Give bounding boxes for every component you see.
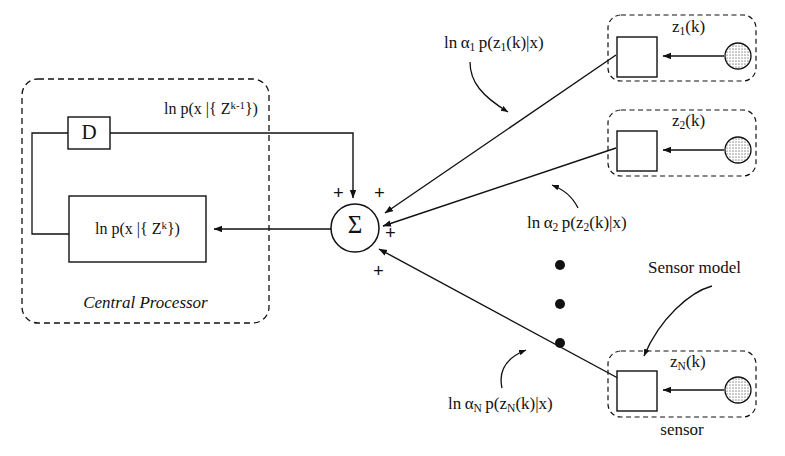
sensor-1-measurement-label: z1(k) xyxy=(672,17,705,38)
state-estimate-label: ln p(x |{ Zk}) xyxy=(69,219,206,238)
sensor-annotation: sensor xyxy=(608,420,756,440)
lk2-ln: ln xyxy=(527,213,540,232)
feedback-path xyxy=(32,133,69,234)
sensor-2-measurement-label: z2(k) xyxy=(672,111,705,132)
sensor-1-link xyxy=(385,55,616,213)
lk2-tail: (k)|x) xyxy=(589,213,626,232)
summing-junction-symbol: Σ xyxy=(331,212,379,237)
state-expression-suffix: }) xyxy=(167,220,180,237)
sensor-n-measurement-label: zN(k) xyxy=(670,352,706,373)
ellipsis-dot xyxy=(555,260,565,270)
z1-arg: (k) xyxy=(685,17,705,36)
state-expression-prefix: ln p(x |{ Z xyxy=(95,220,161,237)
lkn-alpha: α xyxy=(465,394,474,413)
likelihood-n-label: ln αN p(zN(k)|x) xyxy=(448,394,553,415)
plus-sign-sensor-2: + xyxy=(385,222,396,244)
lk1-body: p(z xyxy=(479,33,501,52)
zn-base: z xyxy=(670,352,678,371)
plus-sign-sensor-1: + xyxy=(374,182,385,204)
lk2-body: p(z xyxy=(562,213,584,232)
sensor-n-link xyxy=(379,249,640,390)
ellipsis-dot xyxy=(555,338,565,348)
zn-arg: (k) xyxy=(686,352,706,371)
likelihood-2-callout-arrow xyxy=(552,185,578,208)
prior-path xyxy=(110,133,353,198)
likelihood-1-label: ln α1 p(z1(k)|x) xyxy=(444,33,544,54)
central-processor-label: Central Processor xyxy=(22,293,269,313)
lk1-alpha: α xyxy=(461,33,470,52)
sensor-model-callout-arrow xyxy=(644,286,712,356)
ellipsis-dot xyxy=(555,299,565,309)
figure-canvas: g D ln p(x |{ Zk-1}) ln p(x |{ Zk}) Σ + … xyxy=(0,0,785,456)
lkn-alpha-sub: N xyxy=(474,402,482,415)
lk2-alpha: α xyxy=(544,213,553,232)
lkn-ln: ln xyxy=(448,394,461,413)
lk1-ln: ln xyxy=(444,33,457,52)
lkn-tail: (k)|x) xyxy=(515,394,552,413)
z2-arg: (k) xyxy=(685,111,705,130)
delay-block-label: D xyxy=(68,120,110,145)
likelihood-n-callout-arrow xyxy=(501,350,526,388)
sensor-1-model-box[interactable] xyxy=(617,37,657,77)
prior-expression-suffix: }) xyxy=(245,100,258,117)
lk1-alpha-sub: 1 xyxy=(470,41,476,54)
lk1-tail: (k)|x) xyxy=(506,33,543,52)
sensor-n-device[interactable] xyxy=(725,377,751,403)
plus-sign-prior: + xyxy=(333,182,344,204)
prior-expression-sup: k-1 xyxy=(230,99,245,111)
z2-base: z xyxy=(672,111,680,130)
likelihood-1-callout-arrow xyxy=(470,62,508,112)
sensor-n-model-box[interactable] xyxy=(617,371,657,411)
likelihood-2-label: ln α2 p(z2(k)|x) xyxy=(527,213,627,234)
zn-sub: N xyxy=(678,360,686,373)
prior-expression-label: ln p(x |{ Zk-1}) xyxy=(164,99,258,118)
sensor-2-device[interactable] xyxy=(725,137,751,163)
sensor-1-device[interactable] xyxy=(725,43,751,69)
sensor-model-annotation: Sensor model xyxy=(648,258,741,278)
sensor-2-model-box[interactable] xyxy=(617,131,657,171)
lkn-body: p(z xyxy=(485,394,507,413)
lk2-alpha-sub: 2 xyxy=(553,221,559,234)
z1-base: z xyxy=(672,17,680,36)
plus-sign-sensor-n: + xyxy=(373,260,384,282)
prior-expression-prefix: ln p(x |{ Z xyxy=(164,100,230,117)
